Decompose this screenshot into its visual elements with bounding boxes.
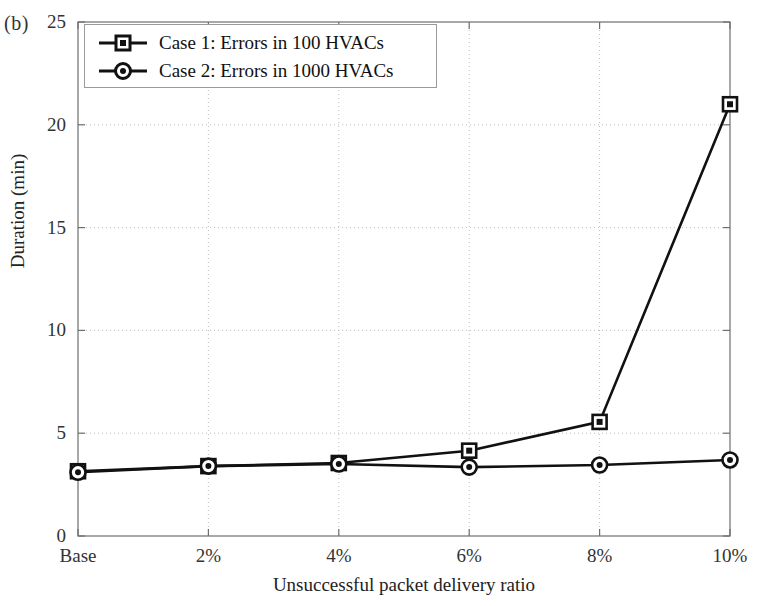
legend-marker-circle-icon [97, 60, 149, 82]
axis-frame [78, 22, 730, 536]
plot-area [0, 0, 758, 606]
legend: Case 1: Errors in 100 HVACs Case 2: Erro… [84, 24, 437, 88]
data-series-layer [71, 97, 738, 480]
legend-item: Case 1: Errors in 100 HVACs [85, 29, 436, 57]
legend-marker-square-icon [97, 32, 149, 54]
gridlines [78, 22, 730, 536]
series-line-1 [78, 104, 730, 471]
legend-item: Case 2: Errors in 1000 HVACs [85, 57, 436, 85]
legend-label-case-1: Case 1: Errors in 100 HVACs [159, 32, 384, 54]
figure-panel: (b) Duration (min) Unsuccessful packet d… [0, 0, 758, 606]
axis-ticks [78, 22, 730, 536]
legend-label-case-2: Case 2: Errors in 1000 HVACs [159, 60, 394, 82]
